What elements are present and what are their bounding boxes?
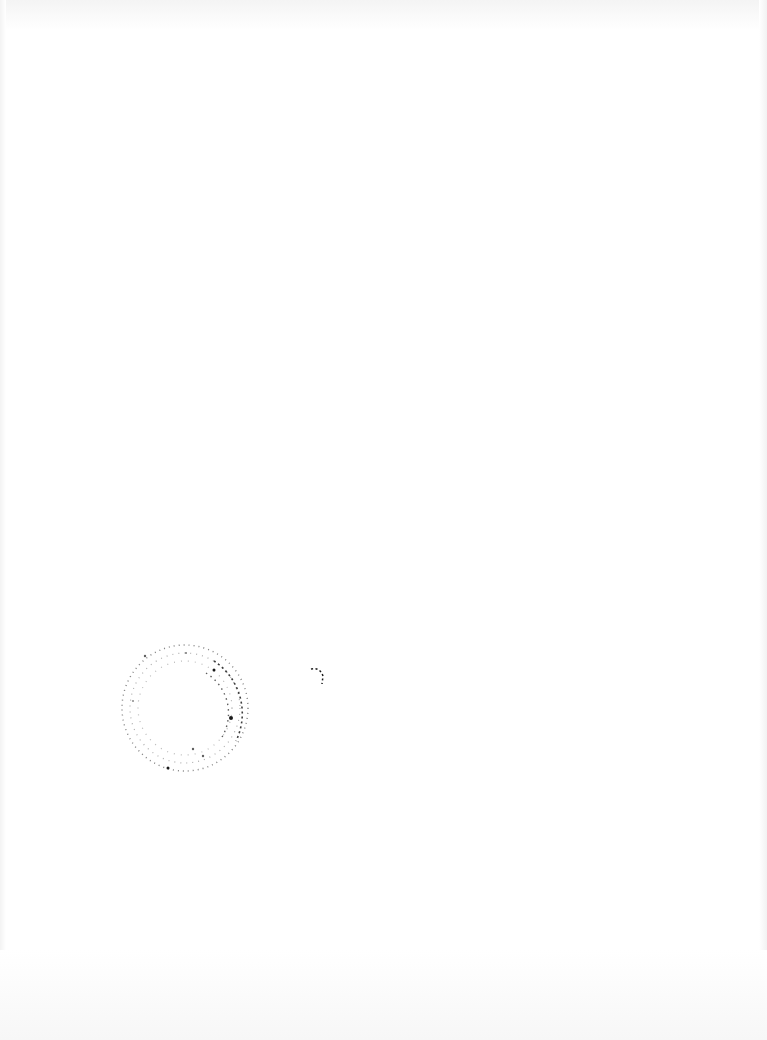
scan-edge-left — [0, 0, 6, 1040]
circular-seal-icon — [118, 641, 252, 775]
scanned-page — [0, 0, 767, 1040]
scan-edge-top — [0, 0, 767, 30]
scan-edge-bottom — [0, 950, 767, 1040]
scan-edge-right — [759, 0, 767, 1040]
arc-mark-icon — [308, 664, 330, 690]
